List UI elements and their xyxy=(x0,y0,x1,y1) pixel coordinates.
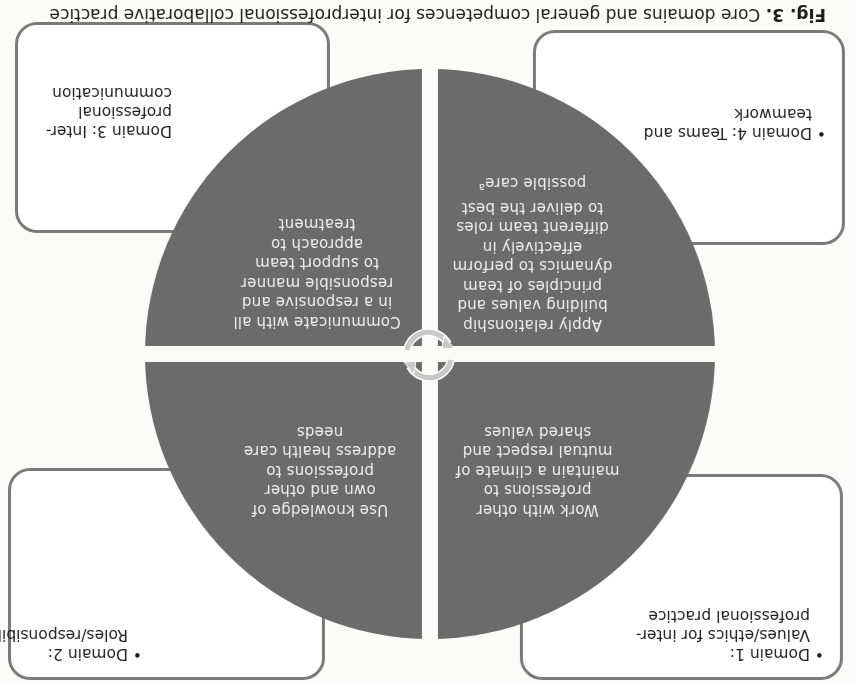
quadrant-domain-1: Work with other professions to maintain … xyxy=(438,362,715,639)
domain-2-title: Domain 2: xyxy=(48,645,128,663)
bullet-icon: • xyxy=(812,123,826,142)
bullet-icon: • xyxy=(810,644,824,663)
domain-2-competence: Use knowledge of own and other professio… xyxy=(230,422,410,520)
bullet-icon: • xyxy=(128,644,142,663)
cycle-arrows-icon xyxy=(398,324,460,386)
caption-text: Core domains and general competences for… xyxy=(50,5,761,25)
quadrant-domain-4: Apply relationship building values and p… xyxy=(438,69,715,346)
diagram-stage: •Domain 1: Values/ethics for inter- prof… xyxy=(0,0,856,684)
figure-caption: Fig. 3. Core domains and general compete… xyxy=(0,5,826,25)
domain-4-competence: Apply relationship building values and p… xyxy=(440,173,625,334)
quadrant-domain-2: Use knowledge of own and other professio… xyxy=(145,362,422,639)
domain-3-competence: Communicate with all in a responsive and… xyxy=(222,214,412,331)
domain-1-competence: Work with other professions to maintain … xyxy=(445,422,630,520)
figure-label: Fig. 3. xyxy=(766,5,826,25)
domain-2-subtitle-line-1: Roles/responsibilities xyxy=(0,625,142,644)
domain-1-title: Domain 1: xyxy=(730,645,810,663)
footnote-marker: a xyxy=(479,183,485,194)
quadrant-domain-3: Communicate with all in a responsive and… xyxy=(145,69,422,346)
domain-2-label: •Domain 2: Roles/responsibilities xyxy=(0,625,142,663)
